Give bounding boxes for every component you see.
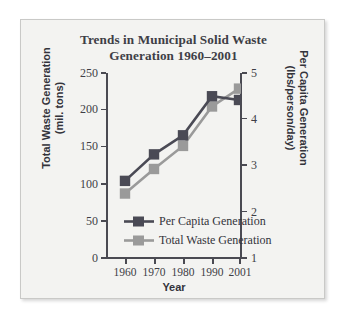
left-axis-label-150: 150 [64,139,98,154]
left-axis-title-line-2: (mil. tons) [53,28,66,188]
left-axis-label-100: 100 [64,177,98,192]
left-axis-label-50: 50 [64,214,98,229]
right-axis-title-line-1: Per Capita Generation [297,28,310,188]
x-axis-tick-1960 [125,259,127,264]
right-axis-label-4: 4 [251,112,273,127]
left-axis-title: Total Waste Generation (mil. tons) [40,28,66,188]
chart-title-line-2: Generation 1960–2001 [21,48,326,64]
data-point-marker [234,83,241,93]
data-point-marker [178,141,188,151]
right-axis-label-3: 3 [251,158,273,173]
x-axis-tick-1980 [183,259,185,264]
x-axis-title: Year [106,281,242,293]
series-total-waste-generation [120,83,241,198]
chart-title: Trends in Municipal Solid Waste Generati… [21,32,326,63]
legend-item-per-capita-generation: Per Capita Generation [124,212,272,231]
chart-figure-frame: Trends in Municipal Solid Waste Generati… [20,19,325,299]
x-axis-tick-1990 [212,259,214,264]
series-markers-per-capita-generation [120,91,241,186]
data-point-marker [234,95,241,105]
left-axis-label-0: 0 [64,251,98,266]
data-point-marker [120,176,130,186]
x-axis-tick-1970 [154,259,156,264]
legend-label-total-waste-generation: Total Waste Generation [159,233,272,248]
legend-key-total-waste-icon [124,234,154,247]
right-axis-label-5: 5 [251,66,273,81]
data-point-marker [178,130,188,140]
right-axis-tick-4 [242,118,247,120]
right-axis-tick-3 [242,164,247,166]
left-axis-title-line-1: Total Waste Generation [40,28,53,188]
x-axis-label-2001: 2001 [220,266,260,278]
data-point-marker [120,188,130,198]
chart-title-line-1: Trends in Municipal Solid Waste [21,32,326,48]
data-point-marker [207,91,217,101]
x-axis-tick-2001 [239,259,241,264]
data-point-marker [149,149,159,159]
right-axis-title: Per Capita Generation (lbs/person/day) [284,28,310,188]
right-axis-tick-5 [242,72,247,74]
left-axis-label-200: 200 [64,102,98,117]
series-per-capita-generation [120,91,241,186]
right-axis-label-1: 1 [251,251,273,266]
right-axis-title-line-2: (lbs/person/day) [284,28,297,188]
right-axis-tick-1 [242,257,247,259]
data-point-marker [149,164,159,174]
legend-label-per-capita-generation: Per Capita Generation [159,214,266,229]
legend-key-per-capita-icon [124,215,154,228]
legend-item-total-waste-generation: Total Waste Generation [124,231,272,250]
left-axis-label-250: 250 [64,66,98,81]
chart-legend: Per Capita Generation Total Waste Genera… [124,212,272,250]
